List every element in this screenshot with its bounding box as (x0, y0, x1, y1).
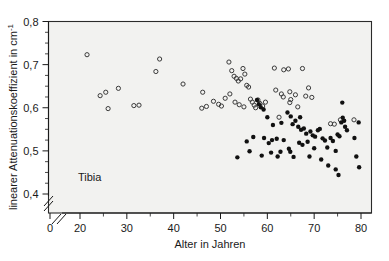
data-point-filled (331, 139, 335, 143)
data-point-filled (275, 137, 279, 141)
data-point-filled (262, 136, 266, 140)
data-point-filled (270, 138, 274, 142)
data-point-filled (260, 153, 264, 157)
data-point-filled (326, 163, 330, 167)
data-point-filled (312, 146, 316, 150)
plot-area-background (49, 22, 372, 214)
scatter-plot: 0,40,50,60,70,8 020304050607080 Tibia Al… (0, 0, 389, 261)
data-point-filled (334, 167, 338, 171)
data-point-filled (298, 115, 302, 119)
data-point-filled (278, 150, 282, 154)
data-point-filled (291, 155, 295, 159)
annotation-tibia: Tibia (78, 171, 102, 183)
y-tick-label: 0,6 (23, 102, 38, 114)
y-tick-label: 0,5 (23, 145, 38, 157)
data-point-filled (285, 110, 289, 114)
data-point-filled (304, 131, 308, 135)
data-point-filled (269, 150, 273, 154)
y-tick-label: 0,8 (23, 16, 38, 28)
y-tick-label: 0,4 (23, 188, 38, 200)
data-point-filled (354, 154, 358, 158)
data-point-filled (265, 115, 269, 119)
data-point-filled (345, 128, 349, 132)
data-point-filled (288, 150, 292, 154)
data-point-filled (282, 138, 286, 142)
data-point-filled (357, 165, 361, 169)
x-tick-label: 20 (74, 222, 86, 234)
data-point-filled (245, 139, 249, 143)
data-point-filled (271, 123, 275, 127)
y-axis-label: linearer Attenuationskoeffizient in cm-1 (6, 23, 19, 210)
data-point-filled (319, 157, 323, 161)
data-point-filled (300, 143, 304, 147)
data-point-filled (235, 155, 239, 159)
data-point-filled (290, 122, 294, 126)
data-point-filled (307, 154, 311, 158)
data-point-filled (279, 121, 283, 125)
x-tick-label: 70 (308, 222, 320, 234)
data-point-filled (255, 98, 259, 102)
x-tick-label: 80 (355, 222, 367, 234)
x-tick-label: 50 (214, 222, 226, 234)
data-point-filled (352, 136, 356, 140)
data-point-filled (342, 118, 346, 122)
data-point-filled (302, 126, 306, 130)
data-point-filled (305, 140, 309, 144)
data-point-filled (261, 107, 265, 111)
data-point-filled (251, 135, 255, 139)
chart-figure: 0,40,50,60,70,8 020304050607080 Tibia Al… (0, 0, 389, 261)
x-tick-label: 60 (261, 222, 273, 234)
x-tick-label: 30 (121, 222, 133, 234)
data-point-filled (323, 138, 327, 142)
data-point-filled (334, 149, 338, 153)
x-tick-label: 40 (168, 222, 180, 234)
x-axis-label: Alter in Jahren (175, 238, 246, 250)
data-point-filled (318, 127, 322, 131)
y-tick-label: 0,7 (23, 59, 38, 71)
data-point-filled (356, 120, 360, 124)
data-point-filled (313, 134, 317, 138)
data-point-filled (293, 118, 297, 122)
data-point-filled (340, 100, 344, 104)
data-point-filled (325, 145, 329, 149)
data-point-filled (289, 114, 293, 118)
data-point-filled (337, 134, 341, 138)
data-point-filled (275, 154, 279, 158)
data-point-filled (336, 173, 340, 177)
data-point-filled (247, 149, 251, 153)
data-point-filled (267, 141, 271, 145)
data-point-filled (308, 129, 312, 133)
